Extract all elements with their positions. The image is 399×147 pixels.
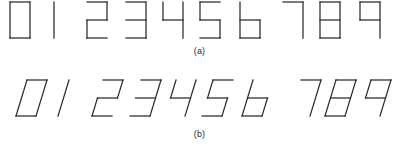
glyph-stroke xyxy=(36,80,47,116)
digit-row-upright xyxy=(0,0,399,46)
slanted-glyph-7 xyxy=(290,80,321,116)
upright-glyph-8 xyxy=(320,2,340,38)
slanted-glyph-5 xyxy=(202,80,233,116)
glyph-stroke xyxy=(171,80,177,98)
digit-row-slanted xyxy=(0,78,399,128)
slanted-glyph-8 xyxy=(325,80,356,116)
slanted-glyph-3 xyxy=(130,80,161,116)
slanted-glyph-4 xyxy=(165,80,196,116)
digit-row-slanted-canvas xyxy=(0,78,399,128)
glyph-stroke xyxy=(92,98,98,116)
upright-glyph-4 xyxy=(163,2,183,38)
upright-glyph-9 xyxy=(360,2,380,38)
slanted-glyph-0 xyxy=(16,80,47,116)
glyph-stroke xyxy=(262,98,268,116)
glyph-stroke xyxy=(310,80,321,116)
slanted-glyph-2 xyxy=(92,80,123,116)
glyph-stroke xyxy=(58,80,69,116)
glyph-stroke xyxy=(208,80,214,98)
digit-font-figure: (a) (b) xyxy=(0,0,399,147)
glyph-stroke xyxy=(118,80,124,98)
upright-glyph-3 xyxy=(126,2,146,38)
upright-glyph-7 xyxy=(283,2,303,38)
glyph-stroke xyxy=(222,98,228,116)
caption-a: (a) xyxy=(0,46,399,56)
slanted-glyph-9 xyxy=(360,80,391,116)
slanted-glyph-1 xyxy=(58,80,69,116)
upright-glyph-6 xyxy=(240,2,260,38)
upright-glyph-5 xyxy=(200,2,220,38)
slanted-glyph-6 xyxy=(242,80,273,116)
glyph-stroke xyxy=(16,80,27,116)
upright-glyph-0 xyxy=(10,2,30,38)
digit-row-upright-canvas xyxy=(0,0,399,46)
upright-glyph-2 xyxy=(87,2,107,38)
caption-b: (b) xyxy=(0,129,399,139)
glyph-stroke xyxy=(366,80,372,98)
